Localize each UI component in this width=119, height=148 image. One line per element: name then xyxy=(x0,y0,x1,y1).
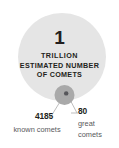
great-comets-bubble xyxy=(64,91,68,95)
known-comets-caption: known comets xyxy=(4,126,70,133)
great-comets-caption-line-2: comets xyxy=(78,131,116,138)
estimated-comets-value: 1 xyxy=(0,28,119,47)
known-comets-value: 4185 xyxy=(22,112,66,120)
estimated-comets-description-line-1: ESTIMATED NUMBER xyxy=(0,62,119,69)
known-comets-bubble xyxy=(55,85,75,105)
estimated-comets-unit: TRILLION xyxy=(0,52,119,59)
great-comets-caption-line-1: great xyxy=(78,120,116,127)
comet-count-infographic: 1 TRILLION ESTIMATED NUMBER OF COMETS 41… xyxy=(0,0,119,148)
great-comets-value: 80 xyxy=(78,107,108,115)
estimated-comets-description-line-2: OF COMETS xyxy=(0,71,119,78)
